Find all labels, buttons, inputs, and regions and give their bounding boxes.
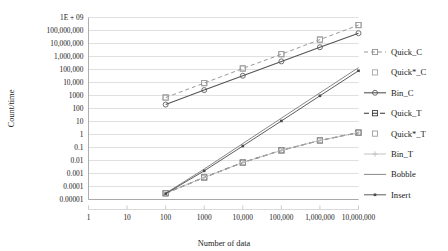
y-tick-label: 0.1 [74,143,84,152]
series-line [166,133,359,194]
data-point-marker [164,192,167,195]
x-axis-title: Number of data [198,239,251,248]
legend-item-bin-t[interactable]: Bin_T [364,149,414,159]
data-point-marker [240,66,245,71]
x-tick-label: 100,000 [269,213,293,222]
y-tick-label: 10 [76,117,84,126]
legend-label: Insert [391,190,411,200]
legend-label: Bin_C [391,88,414,98]
legend-label: Quick*_T [391,129,427,139]
y-axis-title: Count/time [7,89,16,127]
y-tick-label: 0.01 [71,156,84,165]
x-tick-label: 10,000,000 [342,213,376,222]
chart-container: 1E + 09100,000,00010,000,0001,000,000100… [0,0,448,251]
data-point-marker [356,31,361,36]
legend-item-insert[interactable]: Insert [364,190,411,200]
data-point-marker [356,23,361,28]
x-tick-labels: 110100100010,000100,0001,000,00010,000,0… [87,213,376,222]
legend-item-quick-t[interactable]: Quick*_T [372,129,426,139]
gridlines [89,18,359,200]
x-tick-label: 1000 [197,213,212,222]
x-tick-label: 1,000,000 [305,213,335,222]
data-point-marker [202,80,207,85]
data-point-marker [280,120,283,123]
legend-label: Bobble [391,169,416,179]
data-series-layer [163,23,361,197]
chart-legend: Quick_CQuick*_CBin_CQuick_TQuick*_TBin_T… [364,47,427,200]
data-point-marker [357,69,360,72]
y-tick-label: 1E + 09 [60,13,84,22]
legend-label: Bin_T [391,149,414,159]
series-line [166,133,359,194]
y-tick-label: 0.001 [67,169,84,178]
data-point-marker [279,52,284,57]
series-quick-t [163,130,361,196]
data-point-marker [240,66,245,71]
series-line [166,33,359,104]
data-point-marker [356,23,361,28]
y-tick-label: 0.0001 [63,182,84,191]
y-tick-label: 100,000,000 [47,26,84,35]
log-log-chart: 1E + 09100,000,00010,000,0001,000,000100… [0,0,448,251]
series-quick-t [163,130,361,196]
y-tick-label: 1 [80,130,84,139]
legend-item-bin-c[interactable]: Bin_C [364,88,414,98]
data-point-marker [372,70,377,75]
data-point-marker [319,94,322,97]
data-point-marker [241,145,244,148]
legend-label: Quick_C [391,47,422,57]
y-tick-label: 100,000 [59,65,83,74]
legend-label: Quick_T [391,108,422,118]
y-tick-label: 1000 [69,91,84,100]
x-tick-label: 10 [123,213,131,222]
legend-label: Quick*_C [391,67,427,77]
x-tick-marks [89,206,359,210]
data-point-marker [279,52,284,57]
y-tick-labels: 1E + 09100,000,00010,000,0001,000,000100… [47,13,84,204]
y-tick-label: 100 [72,104,83,113]
x-tick-label: 100 [160,213,171,222]
x-tick-label: 10,000 [233,213,254,222]
data-point-marker [203,170,206,173]
y-tick-label: 1,000,000 [54,52,84,61]
y-tick-label: 0.00001 [59,195,83,204]
data-point-marker [374,194,377,197]
legend-item-quick-c[interactable]: Quick_C [364,47,422,57]
x-tick-label: 1 [87,213,91,222]
legend-item-bobble[interactable]: Bobble [364,169,416,179]
y-tick-label: 10,000,000 [50,39,84,48]
data-point-marker [372,131,377,136]
legend-item-quick-c[interactable]: Quick*_C [372,67,426,77]
data-point-marker [202,80,207,85]
legend-item-quick-t[interactable]: Quick_T [364,108,422,118]
y-tick-label: 10,000 [63,78,84,87]
